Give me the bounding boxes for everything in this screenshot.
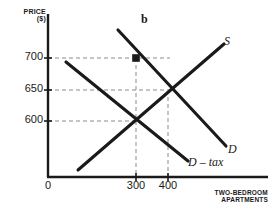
panel-label: b [141, 13, 148, 26]
x-tick-label-0: 0 [40, 180, 56, 192]
supply-curve-label: S [224, 35, 230, 48]
x-tick-label-300: 300 [124, 180, 148, 192]
x-tick-label-400: 400 [156, 180, 180, 192]
x-axis-title-line2: APARTMENTS [221, 196, 268, 203]
y-tick-label-600: 600 [19, 114, 43, 126]
y-tick-label-700: 700 [19, 51, 43, 63]
price-700-marker [132, 54, 140, 62]
demand-curve [118, 30, 226, 146]
supply-demand-chart: PRICE($) 700 650 600 0 300 400 S D D – t… [0, 0, 272, 214]
y-tick-label-650: 650 [19, 83, 43, 95]
guide-lines [48, 58, 170, 177]
demand-minus-tax-curve [66, 62, 188, 161]
y-axis-title-line2: ($) [37, 15, 46, 22]
x-axis-title: TWO-BEDROOMAPARTMENTS [186, 190, 268, 204]
supply-curve [78, 44, 224, 170]
y-axis-title: PRICE($) [14, 8, 46, 23]
demand-minus-tax-label: D – tax [188, 156, 223, 169]
demand-curve-label: D [228, 143, 237, 156]
y-axis-title-line1: PRICE [24, 8, 46, 15]
